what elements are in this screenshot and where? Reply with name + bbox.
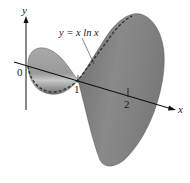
x-axis-label: x [177,103,183,115]
left-lobe-surface [28,48,78,94]
tick-label-2: 2 [124,98,130,110]
surface-of-revolution-diagram: y x 0 1 2 y = x ln x [0,0,190,183]
curve-label: y = x ln x [58,27,99,38]
y-axis-label: y [21,4,27,16]
tick-label-1: 1 [74,83,80,95]
label-leader-line [82,38,94,64]
tick-label-0: 0 [17,66,23,78]
x-axis-arrowhead [168,106,176,111]
y-axis-arrowhead [24,16,29,23]
